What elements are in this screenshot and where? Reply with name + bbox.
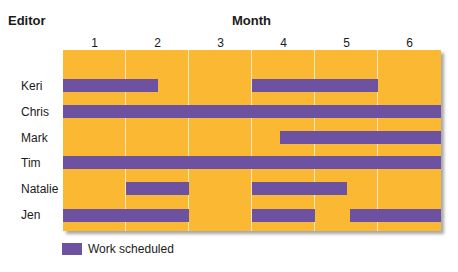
gridline [125, 50, 126, 231]
work-bar-natalie [126, 182, 189, 195]
legend-label: Work scheduled [88, 242, 174, 256]
work-bar-natalie [252, 182, 347, 195]
month-label: 6 [378, 36, 441, 50]
gridline [188, 50, 189, 231]
schedule-grid [63, 50, 441, 231]
month-label: 2 [126, 36, 189, 50]
month-label: 4 [252, 36, 315, 50]
work-bar-keri [63, 79, 158, 92]
editor-header: Editor [8, 13, 46, 28]
row-label-jen: Jen [21, 208, 40, 222]
gridline [251, 50, 252, 231]
month-header: Month [232, 13, 271, 28]
month-label: 3 [189, 36, 252, 50]
month-label: 1 [63, 36, 126, 50]
work-bar-jen [63, 209, 189, 222]
work-bar-chris [63, 105, 441, 118]
work-bar-mark [280, 131, 441, 144]
row-label-mark: Mark [21, 131, 48, 145]
work-bar-keri [252, 79, 378, 92]
work-bar-tim [63, 156, 441, 169]
work-bar-jen [252, 209, 315, 222]
row-label-keri: Keri [21, 79, 42, 93]
work-bar-jen [350, 209, 441, 222]
legend-swatch [62, 243, 82, 255]
month-label: 5 [315, 36, 378, 50]
row-label-chris: Chris [21, 105, 49, 119]
row-label-tim: Tim [21, 156, 41, 170]
row-label-natalie: Natalie [21, 182, 58, 196]
